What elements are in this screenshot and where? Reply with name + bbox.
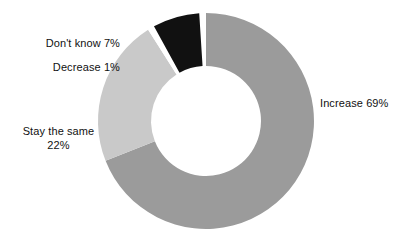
slice-label-decrease: Decrease 1% — [0, 60, 120, 74]
donut-chart: Don't know 7% Decrease 1% Stay the same … — [0, 0, 396, 242]
donut-slice-group — [98, 0, 314, 229]
slice-label-stay-the-same: Stay the same 22% — [6, 124, 111, 152]
slice-label-stay-the-same-line2: 22% — [47, 139, 69, 151]
slice-label-increase: Increase 69% — [320, 96, 396, 110]
slice-label-dont-know: Don't know 7% — [0, 36, 120, 50]
slice-label-stay-the-same-line1: Stay the same — [23, 125, 95, 137]
